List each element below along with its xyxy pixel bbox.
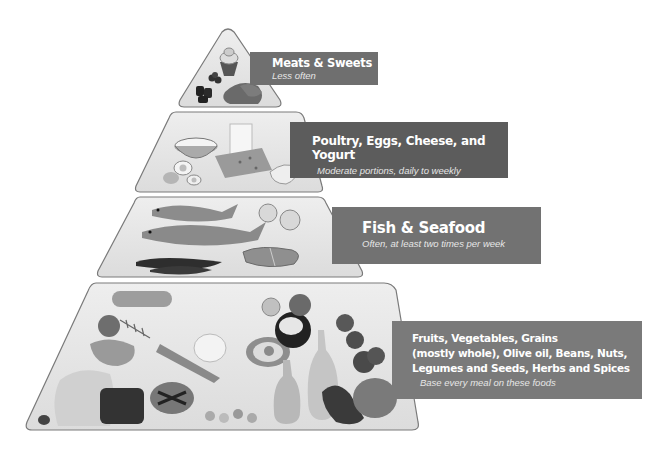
label-poultry-eggs-cheese-yogurt: Poultry, Eggs, Cheese, and Yogurt Modera…	[290, 122, 508, 178]
label-fish-seafood: Fish & Seafood Often, at least two times…	[332, 207, 541, 264]
tier-2-title: Poultry, Eggs, Cheese, and Yogurt	[312, 135, 508, 163]
tier-4-title-line-2: (mostly whole), Olive oil, Beans, Nuts,	[412, 346, 642, 361]
label-plant-foods: Fruits, Vegetables, Grains (mostly whole…	[392, 321, 642, 399]
pumpkin-icon	[353, 378, 397, 418]
label-meats-sweets: Meats & Sweets Less often	[250, 52, 378, 85]
tier-4-subtitle: Base every meal on these foods	[412, 377, 642, 388]
salmon-steak-icon	[243, 247, 299, 266]
tier-2-subtitle: Moderate portions, daily to weekly	[312, 165, 508, 176]
tier-1-subtitle: Less often	[272, 70, 378, 81]
tier-3-title: Fish & Seafood	[362, 220, 541, 237]
tier-3-subtitle: Often, at least two times per week	[362, 238, 541, 249]
mediterranean-food-pyramid: Meats & Sweets Less often Poultry, Eggs,…	[0, 0, 662, 455]
mushroom-icon	[194, 334, 226, 362]
coconut-icon	[275, 312, 311, 348]
tier-4-title-line-3: Legumes and Seeds, Herbs and Spices	[412, 361, 642, 376]
tier-1-title: Meats & Sweets	[272, 57, 378, 70]
tier-3-fish-seafood	[98, 197, 363, 277]
olive-icon	[38, 415, 50, 425]
apple-icon	[98, 315, 120, 337]
tier-4-title-line-1: Fruits, Vegetables, Grains	[412, 331, 642, 346]
tier-4-plant-foods	[26, 283, 418, 430]
zucchini-icon	[112, 291, 172, 307]
orange-icon	[262, 298, 280, 316]
